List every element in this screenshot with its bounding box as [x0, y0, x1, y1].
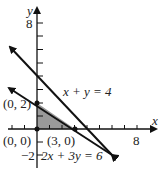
point-label-3-0: (3, 0) — [47, 134, 75, 147]
point-3-0 — [73, 127, 78, 132]
x-tick-label-8: 8 — [133, 134, 140, 147]
line1-label: x + y = 4 — [63, 85, 112, 98]
y-ticks — [37, 23, 43, 155]
x-axis-label: x — [152, 114, 158, 127]
y-tick-label-8: 8 — [26, 17, 33, 30]
point-0-2 — [35, 101, 40, 106]
y-tick-label-neg2: −2 — [21, 149, 35, 162]
point-label-origin: (0, 0) — [3, 134, 31, 147]
point-origin — [35, 127, 40, 132]
line2-label: 2x + 3y = 6 — [41, 149, 103, 162]
point-label-0-2: (0, 2) — [3, 97, 31, 110]
